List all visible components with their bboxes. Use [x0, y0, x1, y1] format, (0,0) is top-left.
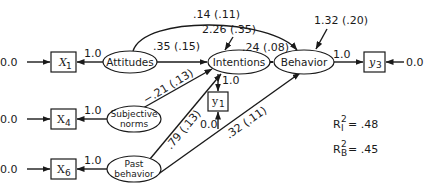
edge-disturbance-behavior: [316, 29, 327, 49]
r-squared-intentions: R 2 I = .48: [333, 114, 378, 133]
r2-behavior-r: R: [333, 143, 341, 156]
r2-behavior-sub: B: [341, 148, 347, 158]
loading-attitudes-x1: 1.0: [84, 47, 102, 60]
x1-subscript: 1: [66, 61, 72, 71]
r2-behavior-value: = .45: [348, 143, 378, 156]
x4-label: X: [57, 113, 65, 126]
loading-past-behavior-x6: 1.0: [84, 154, 102, 167]
r2-intentions-sub: I: [341, 123, 344, 133]
loading-behavior-y3: 1.0: [333, 48, 351, 61]
past-behavior-label-1: Past: [125, 159, 144, 169]
edge-disturbance-intentions: [225, 37, 233, 50]
r2-intentions-r: R: [333, 118, 341, 131]
y1-label: y: [211, 95, 219, 108]
y3-label: y: [368, 56, 376, 69]
behavior-label: Behavior: [281, 56, 328, 68]
y1-subscript: 1: [219, 99, 225, 109]
error-y3-value: 0.0: [406, 56, 424, 69]
latent-node-past-behavior: Past behavior: [107, 156, 161, 182]
path-attitudes-intentions: .35 (.15): [153, 40, 200, 53]
x6-subscript: 6: [65, 168, 71, 178]
latent-node-subjective-norms: Subjective norms: [107, 106, 161, 132]
disturbance-intentions: 2.26 (.35): [202, 23, 256, 36]
path-subjective-norms-intentions: −.21 (.13): [141, 66, 196, 106]
x6-label: X: [57, 163, 65, 176]
observed-node-y3: y 3: [364, 52, 385, 72]
error-x1-value: 0.0: [0, 56, 18, 69]
path-intentions-behavior: .24 (.08): [242, 41, 289, 54]
observed-node-x4: X 4: [51, 109, 76, 129]
attitudes-label: Attitudes: [106, 56, 154, 68]
latent-node-attitudes: Attitudes: [103, 51, 157, 73]
subjective-norms-label-1: Subjective: [110, 109, 157, 119]
path-attitudes-behavior: .14 (.11): [193, 8, 240, 21]
path-diagram: X 1 Attitudes Intentions Behavior y 3 y …: [0, 0, 427, 192]
subjective-norms-label-2: norms: [120, 119, 149, 129]
intentions-label: Intentions: [213, 56, 266, 68]
disturbance-behavior: 1.32 (.20): [314, 14, 368, 27]
error-x6-value: 0.0: [0, 163, 18, 176]
error-x4-value: 0.0: [0, 113, 18, 126]
x4-subscript: 4: [65, 118, 71, 128]
r-squared-behavior: R 2 B = .45: [333, 139, 378, 158]
past-behavior-label-2: behavior: [114, 169, 154, 179]
loading-intentions-y1: 1.0: [222, 74, 240, 87]
loading-subjective-norms-x4: 1.0: [84, 104, 102, 117]
observed-node-x1: X 1: [51, 52, 76, 72]
observed-node-y1: y 1: [208, 92, 228, 111]
error-y1-value: 0.0: [200, 118, 218, 131]
observed-node-x6: X 6: [51, 159, 76, 179]
y3-subscript: 3: [376, 60, 382, 70]
r2-intentions-value: = .48: [348, 118, 378, 131]
